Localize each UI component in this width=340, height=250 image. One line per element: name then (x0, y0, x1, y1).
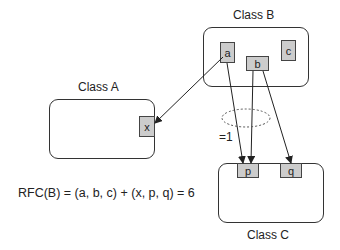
arrow-b-to-q (263, 71, 291, 163)
arrow-a-to-p (227, 63, 243, 163)
arrow-b-to-p (251, 71, 253, 163)
ellipse-label: =1 (219, 130, 233, 144)
diagram-canvas: Class B a b c Class A x p q Class C =1 R… (0, 0, 340, 250)
rfc-formula: RFC(B) = (a, b, c) + (x, p, q) = 6 (18, 186, 195, 200)
dashed-ellipse (222, 109, 270, 127)
arrow-a-to-x (155, 57, 223, 123)
connectors (0, 0, 340, 250)
